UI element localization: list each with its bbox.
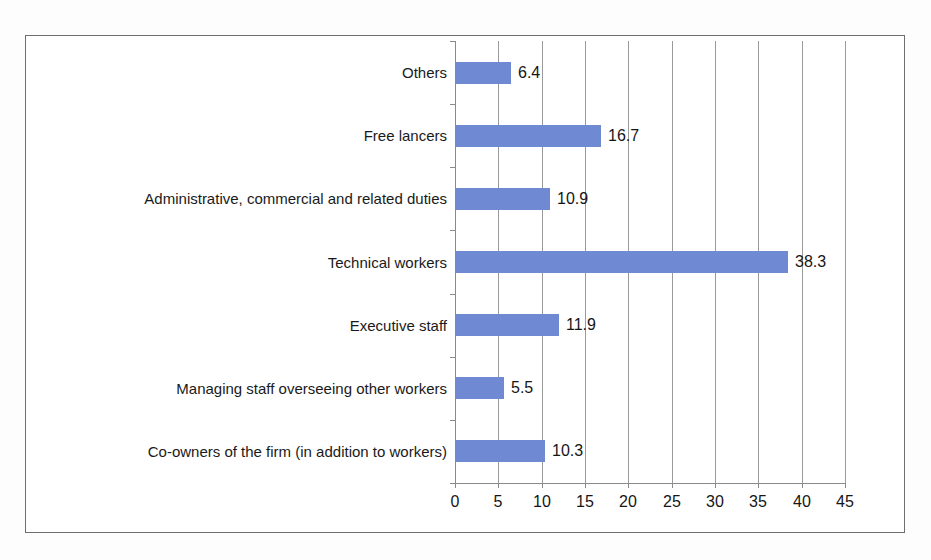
value-tick-10 bbox=[542, 483, 543, 488]
value-tick-label: 40 bbox=[782, 493, 822, 511]
value-tick-35 bbox=[758, 483, 759, 488]
bar-value-label: 10.9 bbox=[557, 188, 588, 210]
category-label: Technical workers bbox=[47, 253, 447, 272]
category-label: Administrative, commercial and related d… bbox=[47, 189, 447, 208]
value-tick-label: 30 bbox=[695, 493, 735, 511]
category-label: Free lancers bbox=[47, 126, 447, 145]
plot-area: 6.416.710.938.311.95.510.3 bbox=[455, 41, 845, 483]
bar-value-label: 11.9 bbox=[566, 314, 596, 336]
bar-value-label: 10.3 bbox=[552, 440, 583, 462]
value-tick-label: 10 bbox=[522, 493, 562, 511]
bar-value-label: 6.4 bbox=[518, 62, 540, 84]
category-axis-line bbox=[455, 41, 456, 483]
value-tick-0 bbox=[455, 483, 456, 488]
value-tick-20 bbox=[628, 483, 629, 488]
bar[interactable] bbox=[456, 314, 559, 336]
value-axis-line bbox=[455, 483, 846, 484]
bar-value-label: 38.3 bbox=[795, 251, 826, 273]
category-label: Managing staff overseeing other workers bbox=[47, 379, 447, 398]
value-tick-label: 15 bbox=[565, 493, 605, 511]
bar[interactable] bbox=[456, 188, 550, 210]
bar[interactable] bbox=[456, 440, 545, 462]
chart-frame: 6.416.710.938.311.95.510.3 OthersFree la… bbox=[25, 35, 905, 533]
category-label: Executive staff bbox=[47, 316, 447, 335]
value-tick-5 bbox=[498, 483, 499, 488]
chart-page: 6.416.710.938.311.95.510.3 OthersFree la… bbox=[0, 0, 931, 560]
value-tick-15 bbox=[585, 483, 586, 488]
value-tick-label: 35 bbox=[738, 493, 778, 511]
value-tick-label: 5 bbox=[478, 493, 518, 511]
gridline-45 bbox=[845, 41, 846, 483]
value-tick-25 bbox=[672, 483, 673, 488]
bar[interactable] bbox=[456, 377, 504, 399]
bar[interactable] bbox=[456, 251, 788, 273]
bar[interactable] bbox=[456, 62, 511, 84]
bar-value-label: 5.5 bbox=[511, 377, 533, 399]
value-tick-label: 45 bbox=[825, 493, 865, 511]
value-tick-45 bbox=[845, 483, 846, 488]
value-tick-40 bbox=[802, 483, 803, 488]
category-label: Others bbox=[47, 63, 447, 82]
bar[interactable] bbox=[456, 125, 601, 147]
value-tick-label: 25 bbox=[652, 493, 692, 511]
value-tick-label: 0 bbox=[435, 493, 475, 511]
category-label: Co-owners of the firm (in addition to wo… bbox=[47, 442, 447, 461]
bar-value-label: 16.7 bbox=[608, 125, 639, 147]
value-tick-label: 20 bbox=[608, 493, 648, 511]
value-tick-30 bbox=[715, 483, 716, 488]
